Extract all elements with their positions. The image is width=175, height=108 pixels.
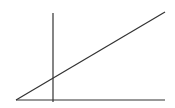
diagonal-line [16,12,165,100]
diagram-canvas [0,0,175,108]
line-diagram [0,0,175,108]
